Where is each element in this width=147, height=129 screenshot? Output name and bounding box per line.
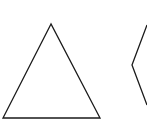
partial-polygon-shape xyxy=(132,25,147,105)
triangle-shape xyxy=(3,24,100,118)
diagram-canvas xyxy=(0,0,147,129)
